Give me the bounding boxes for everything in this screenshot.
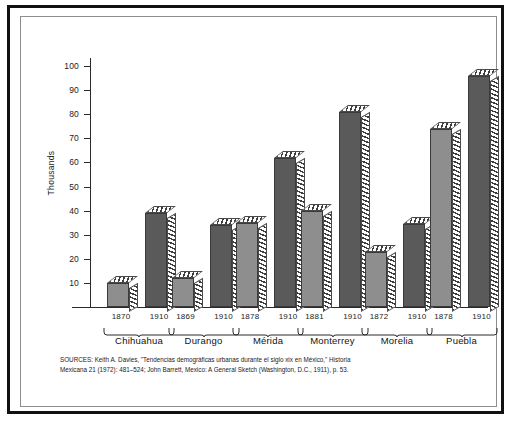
bar xyxy=(468,76,490,307)
x-axis-year-label: 1878 xyxy=(233,312,267,321)
x-axis-year-label: 1910 xyxy=(465,312,499,321)
bar xyxy=(210,225,232,307)
x-axis-group-label: Chihuahua xyxy=(103,335,175,346)
y-axis-tick-label: 50 xyxy=(43,182,79,192)
y-axis-tick-label: 10 xyxy=(43,278,79,288)
bar-side-face xyxy=(452,128,461,312)
bar-front-face xyxy=(301,211,323,307)
group-brace xyxy=(232,323,304,332)
bar-front-face xyxy=(107,283,129,307)
bar-top-face xyxy=(339,105,370,112)
y-axis-tick-label: 20 xyxy=(43,254,79,264)
bar xyxy=(301,211,323,307)
x-axis-group-label: Durango xyxy=(168,335,240,346)
bar-side-face xyxy=(194,278,203,312)
bar xyxy=(339,112,361,307)
bar-side-face xyxy=(129,283,138,312)
y-axis-tick-label: 90 xyxy=(43,85,79,95)
bar-top-face xyxy=(145,206,176,213)
bar-front-face xyxy=(365,252,387,307)
bar-front-face xyxy=(172,278,194,307)
bar-top-face xyxy=(274,151,305,158)
x-axis-year-label: 1872 xyxy=(362,312,396,321)
x-axis-year-label: 1881 xyxy=(298,312,332,321)
group-brace xyxy=(168,323,240,332)
bar-front-face xyxy=(430,129,452,307)
bar-front-face xyxy=(339,112,361,307)
bar xyxy=(236,223,258,307)
bar xyxy=(365,252,387,307)
y-axis-tick-label: 30 xyxy=(43,230,79,240)
group-brace xyxy=(297,323,369,332)
bar xyxy=(145,213,167,307)
x-axis-year-label: 1869 xyxy=(169,312,203,321)
source-note-line-1: SOURCES: Keith A. Davies, "Tendencias de… xyxy=(60,355,460,365)
group-brace xyxy=(426,323,498,332)
source-note-line-2: Mexicana 21 (1972): 481–524; John Barret… xyxy=(60,365,460,375)
x-axis-year-label: 1878 xyxy=(427,312,461,321)
bar-front-face xyxy=(236,223,258,307)
plot-area xyxy=(90,58,488,307)
bar-front-face xyxy=(210,225,232,307)
bar-top-face xyxy=(107,276,138,283)
bar-side-face xyxy=(258,222,267,312)
bar-top-face xyxy=(172,271,203,278)
x-axis-group-label: Monterrey xyxy=(297,335,369,346)
y-axis-tick-label: 40 xyxy=(43,206,79,216)
bar-side-face xyxy=(323,210,332,312)
bar-top-face xyxy=(236,216,267,223)
bar-front-face xyxy=(145,213,167,307)
group-brace xyxy=(361,323,433,332)
x-axis-group-label: Puebla xyxy=(426,335,498,346)
y-axis-tick-label: 70 xyxy=(43,133,79,143)
y-axis-tick-label: 80 xyxy=(43,109,79,119)
figure-outer-frame: Thousands 102030405060708090100 18701910… xyxy=(7,5,504,414)
group-brace xyxy=(103,323,175,332)
bar xyxy=(274,158,296,307)
bar-front-face xyxy=(403,224,425,307)
y-axis-tick-label: 60 xyxy=(43,157,79,167)
bar xyxy=(107,283,129,307)
x-axis-group-label: Morelia xyxy=(361,335,433,346)
bar xyxy=(430,129,452,307)
y-axis-tick-label: 100 xyxy=(43,61,79,71)
bar-front-face xyxy=(468,76,490,307)
bar xyxy=(403,224,425,307)
x-axis-group-label: Mérida xyxy=(232,335,304,346)
bar xyxy=(172,278,194,307)
source-note: SOURCES: Keith A. Davies, "Tendencias de… xyxy=(60,355,460,375)
bar-top-face xyxy=(301,204,332,211)
bar-side-face xyxy=(490,75,499,312)
bar-front-face xyxy=(274,158,296,307)
bar-side-face xyxy=(387,251,396,312)
bar-top-face xyxy=(430,122,461,129)
x-axis-year-label: 1870 xyxy=(104,312,138,321)
